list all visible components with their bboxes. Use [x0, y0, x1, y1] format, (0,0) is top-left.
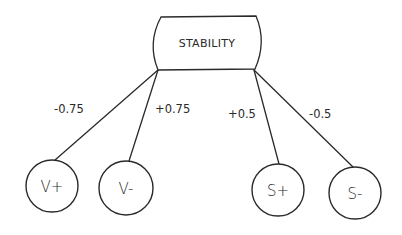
edge-weight-vplus: -0.75: [54, 102, 84, 116]
child-node-sminus-label: S-: [348, 185, 363, 203]
root-node-label: STABILITY: [179, 37, 236, 50]
edge-stability-vminus: [129, 70, 158, 161]
edge-weight-sminus: -0.5: [309, 107, 331, 121]
child-node-vplus: V+: [26, 160, 78, 212]
child-node-vminus: V-: [99, 161, 153, 215]
stability-diagram: -0.75 +0.75 +0.5 -0.5 STABILITY V+ V- S+…: [0, 0, 402, 235]
root-node: STABILITY: [153, 16, 261, 70]
child-node-splus: S+: [252, 164, 304, 216]
edge-weight-splus: +0.5: [228, 107, 256, 121]
child-node-vplus-label: V+: [41, 178, 64, 196]
edge-weight-vminus: +0.75: [155, 102, 190, 116]
child-node-splus-label: S+: [267, 182, 289, 200]
edge-stability-splus: [254, 70, 279, 164]
child-node-vminus-label: V-: [119, 180, 134, 198]
child-node-sminus: S-: [329, 167, 381, 219]
edge-stability-sminus: [254, 70, 353, 167]
